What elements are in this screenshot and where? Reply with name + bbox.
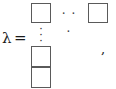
vertical-ellipsis: · · · <box>31 25 51 45</box>
vertical-ellipsis-dot-3: · <box>31 39 51 45</box>
formula-figure: λ = · · · · · · , <box>0 0 116 89</box>
diagram-cell-top-left <box>31 3 51 23</box>
equals-sign: = <box>14 31 27 46</box>
horizontal-ellipsis: · · · <box>57 5 81 23</box>
diagram-cell-bottom-upper <box>31 46 51 67</box>
diagram-cell-bottom-lower <box>31 67 51 88</box>
lambda-symbol: λ <box>2 31 12 46</box>
diagram-cell-top-right <box>88 3 108 23</box>
trailing-comma: , <box>101 42 105 55</box>
